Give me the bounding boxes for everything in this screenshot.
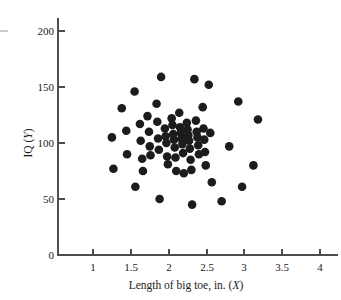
data-point	[145, 128, 154, 137]
data-point	[204, 80, 213, 89]
svg-text:IQ (Y): IQ (Y)	[22, 128, 35, 157]
data-point	[122, 126, 131, 135]
data-point	[188, 200, 197, 209]
svg-text:Length of big toe, in. (X): Length of big toe, in. (X)	[129, 279, 244, 292]
data-point	[136, 136, 145, 145]
chart-canvas: 200 150 100 50 0 1 1.5 2 2.5 3 3.5 4	[0, 0, 341, 300]
data-point	[254, 115, 263, 124]
data-point	[131, 182, 140, 191]
scatter-points-layer	[108, 73, 263, 209]
data-point	[139, 167, 148, 176]
x-axis-ticks	[93, 249, 320, 255]
data-point	[187, 166, 196, 175]
data-point	[180, 169, 189, 178]
data-point	[170, 143, 179, 152]
data-point	[208, 178, 217, 187]
data-point	[108, 133, 117, 142]
data-point	[186, 144, 195, 153]
y-tick-label-200: 200	[38, 25, 55, 37]
data-point	[123, 150, 132, 159]
x-tick-label-4: 4	[317, 261, 323, 273]
data-point	[172, 167, 181, 176]
y-axis-tick-labels: 200 150 100 50 0	[38, 25, 55, 261]
data-point	[155, 145, 164, 154]
x-axis-title-close: )	[240, 279, 244, 292]
data-point	[225, 142, 234, 151]
data-point	[146, 151, 155, 160]
y-axis-ticks	[58, 31, 65, 199]
data-point	[109, 164, 118, 173]
data-point	[162, 139, 171, 148]
scatter-plot-figure: 200 150 100 50 0 1 1.5 2 2.5 3 3.5 4	[0, 0, 341, 300]
x-tick-label-2-5: 2.5	[200, 261, 214, 273]
data-point	[163, 152, 172, 161]
data-point	[190, 75, 199, 84]
x-axis-tick-labels: 1 1.5 2 2.5 3 3.5 4	[90, 261, 323, 273]
data-point	[217, 197, 226, 206]
data-point	[155, 195, 164, 204]
data-point	[206, 129, 215, 138]
data-point	[138, 154, 147, 163]
data-point	[168, 121, 177, 130]
data-point	[143, 112, 152, 121]
data-point	[192, 116, 201, 125]
data-point	[186, 156, 195, 165]
x-tick-label-1: 1	[90, 261, 96, 273]
x-tick-label-2: 2	[166, 261, 172, 273]
x-tick-label-3-5: 3.5	[275, 261, 289, 273]
data-point	[136, 120, 145, 129]
data-point	[164, 160, 173, 169]
data-point	[145, 142, 154, 151]
y-tick-label-0: 0	[49, 249, 55, 261]
data-point	[175, 108, 184, 117]
y-tick-label-100: 100	[38, 137, 55, 149]
x-axis-title-main: Length of big toe, in. (	[129, 279, 233, 292]
data-point	[249, 161, 258, 170]
data-point	[170, 135, 179, 144]
data-point	[234, 97, 243, 106]
data-point	[161, 124, 170, 133]
data-point	[153, 117, 162, 126]
data-point	[238, 182, 247, 191]
y-tick-label-50: 50	[43, 193, 55, 205]
data-point	[152, 100, 161, 109]
data-point	[171, 153, 180, 162]
data-point	[157, 73, 166, 82]
y-axis-title-close: )	[22, 128, 35, 132]
y-axis-title: IQ (Y)	[22, 128, 35, 157]
data-point	[201, 148, 210, 157]
x-tick-label-1-5: 1.5	[124, 261, 138, 273]
y-tick-label-150: 150	[38, 81, 55, 93]
x-axis-title: Length of big toe, in. (X)	[129, 279, 244, 292]
data-point	[201, 161, 210, 170]
data-point	[130, 87, 139, 96]
data-point	[200, 135, 209, 144]
data-point	[154, 134, 163, 143]
data-point	[185, 136, 194, 145]
y-axis-title-main: IQ (	[22, 139, 35, 158]
x-tick-label-3: 3	[241, 261, 247, 273]
data-point	[198, 103, 207, 112]
data-point	[117, 104, 126, 113]
